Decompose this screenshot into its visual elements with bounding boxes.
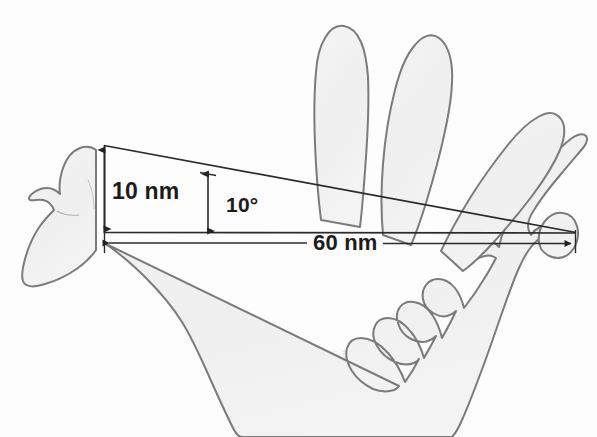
index-finger-shape <box>314 26 368 227</box>
figure-canvas: d is much less than the wavelength nanom… <box>0 0 597 437</box>
length-label: 60 nm <box>313 230 378 256</box>
hand-diagram-svg <box>0 0 597 437</box>
little-finger-shape <box>539 213 578 258</box>
thumb-shape <box>22 147 96 287</box>
middle-finger-shape <box>382 35 453 245</box>
hand-outline-group <box>22 26 587 437</box>
angle-label: 10° <box>226 193 258 217</box>
height-label: 10 nm <box>112 178 179 205</box>
